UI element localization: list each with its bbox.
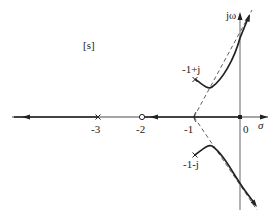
imag-axis-label: jω	[226, 10, 236, 21]
tick-label-neg1: -1	[184, 124, 193, 135]
tick-label-zero: 0	[243, 124, 249, 135]
locus-branch-upper	[195, 16, 249, 88]
pole-label-lower: -1-j	[183, 159, 199, 170]
locus-branch-lower	[195, 146, 255, 204]
locus-arrow-zero-icon	[150, 115, 158, 120]
tick-label-neg3: -3	[91, 124, 100, 135]
asymptote-upper	[194, 10, 252, 117]
pole-label-upper: -1+j	[182, 64, 200, 75]
imag-axis-arrow-icon	[238, 12, 243, 20]
pole-marker-lower	[193, 153, 198, 158]
locus-arrow-upper-icon	[245, 14, 250, 22]
plane-label: [s]	[83, 40, 95, 51]
pole-marker-origin	[238, 115, 242, 119]
locus-arrow-left-icon	[22, 115, 30, 120]
zero-marker-neg2	[139, 114, 144, 119]
tick-label-neg2: -2	[136, 124, 145, 135]
real-axis-label: σ	[258, 120, 263, 131]
root-locus-diagram	[0, 0, 276, 219]
